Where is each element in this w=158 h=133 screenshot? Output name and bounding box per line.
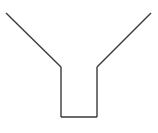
funnel-right-slope	[97, 13, 151, 67]
funnel-left-slope	[6, 13, 61, 67]
funnel-diagram	[0, 0, 158, 133]
